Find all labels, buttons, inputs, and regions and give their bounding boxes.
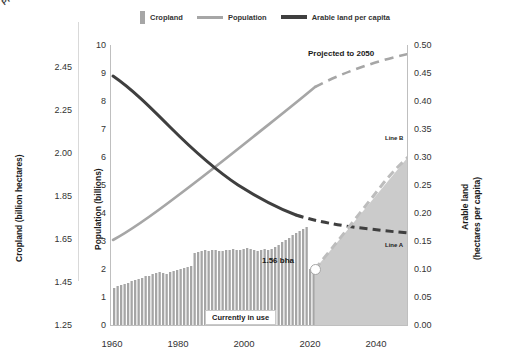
population-tick-label: 4 <box>84 208 106 218</box>
x-tick-label: 2000 <box>224 338 264 349</box>
bha-marker-point <box>310 264 321 275</box>
x-tick-label: 1980 <box>158 338 198 349</box>
legend-label-cropland: Cropland <box>150 13 183 22</box>
population-tick-label: 6 <box>84 152 106 162</box>
arable-tick-label: 0.35 <box>414 124 444 134</box>
cropland-tick-label: 1.85 <box>38 191 72 201</box>
population-tick-label: 10 <box>84 40 106 50</box>
arable-tick-label: 0.50 <box>414 40 444 50</box>
plot-area <box>110 45 408 326</box>
annotation-projected-demand: Projected demand <box>0 0 403 7</box>
population-line-historical <box>113 87 315 240</box>
arable-line-historical <box>113 76 296 215</box>
cropland-tick-label: 1.65 <box>38 234 72 244</box>
cropland-swatch-icon <box>140 11 145 24</box>
arable-tick-label: 0.00 <box>414 320 444 330</box>
x-tick-label: 2040 <box>356 338 396 349</box>
arable-tick-label: 0.30 <box>414 152 444 162</box>
population-line-projected <box>315 54 408 87</box>
x-tick-label: 2020 <box>290 338 330 349</box>
population-tick-label: 3 <box>84 236 106 246</box>
legend-item-arable: Arable land per capita <box>281 13 390 22</box>
axis-title-cropland: Cropland (billion hectares) <box>14 154 24 262</box>
chart-canvas <box>110 45 408 326</box>
population-tick-label: 9 <box>84 68 106 78</box>
population-tick-label: 0 <box>84 320 106 330</box>
cropland-tick-label: 1.25 <box>38 320 72 330</box>
arable-tick-label: 0.20 <box>414 208 444 218</box>
legend-label-population: Population <box>228 13 267 22</box>
annotation-line-a: Line A <box>385 242 403 248</box>
cropland-tick-label: 2.45 <box>38 62 72 72</box>
axis-title-arable-line2: (hectares per capita) <box>472 177 482 260</box>
population-tick-label: 1 <box>84 292 106 302</box>
cropland-tick-label: 1.45 <box>38 277 72 287</box>
arable-line-swatch-icon <box>281 15 307 19</box>
annotation-bha-value: 1.56 bha <box>262 256 294 265</box>
arable-tick-label: 0.15 <box>414 236 444 246</box>
x-tick-label: 1960 <box>92 338 132 349</box>
cropland-tick-label: 2.00 <box>38 148 72 158</box>
chart-legend: Cropland Population Arable land per capi… <box>140 9 440 25</box>
legend-label-arable: Arable land per capita <box>312 13 390 22</box>
population-line-swatch-icon <box>197 16 223 19</box>
population-tick-label: 5 <box>84 180 106 190</box>
axis-title-arable-line1: Arable land <box>460 184 470 230</box>
arable-tick-label: 0.25 <box>414 180 444 190</box>
cropland-axis-line <box>78 22 79 281</box>
population-tick-label: 2 <box>84 264 106 274</box>
arable-tick-label: 0.10 <box>414 264 444 274</box>
cropland-tick-label: 2.25 <box>38 105 72 115</box>
arable-tick-label: 0.05 <box>414 292 444 302</box>
population-tick-label: 8 <box>84 96 106 106</box>
population-tick-label: 7 <box>84 124 106 134</box>
annotation-projected-to-2050: Projected to 2050 <box>308 49 374 58</box>
annotation-currently-in-use: Currently in use <box>205 310 276 325</box>
arable-tick-label: 0.45 <box>414 68 444 78</box>
legend-item-cropland: Cropland <box>140 11 183 24</box>
arable-tick-label: 0.40 <box>414 96 444 106</box>
legend-item-population: Population <box>197 13 267 22</box>
annotation-line-b: Line B <box>385 135 403 141</box>
chart-root: Cropland Population Arable land per capi… <box>0 0 505 363</box>
